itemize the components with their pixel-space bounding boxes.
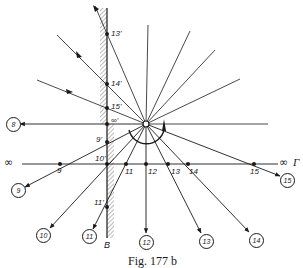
circled-label-11: 11 [82,229,97,244]
axis-point-label-13: 13 [171,168,180,176]
figure-caption: Fig. 177 b [128,255,177,267]
circled-label-10: 10 [36,228,51,243]
circled-label-13: 13 [199,234,214,249]
axis-point-label-15: 15 [250,168,259,176]
rotation-arc-arrow-icon [162,119,166,131]
wall-point-label-9p: 9' [96,136,102,144]
axis-name-gamma: Γ [293,157,299,168]
wall-point-label-15p: 15' [111,103,121,111]
wall-point-label-14p: 14' [111,80,121,88]
axis-point-label-9: 9 [57,167,61,175]
wall-label-b: B [104,241,110,250]
axis-infinity-right: ∞ [279,157,288,168]
circled-label-12: 12 [139,235,154,250]
center-pivot [143,121,149,127]
axis-point-label-12: 12 [148,168,157,176]
circled-label-9: 9 [11,183,26,198]
circled-label-15: 15 [280,173,295,188]
axis-point-label-14: 14 [189,168,198,176]
incoming-rays [37,6,146,124]
upper-rays [146,25,268,124]
circled-label-14: 14 [249,233,264,248]
wall-point-label-infp: ∞' [111,117,118,125]
wall-point-label-13p: 13' [111,30,121,38]
wall-point-label-11p: 11' [94,199,104,207]
axis-infinity-left: ∞ [4,157,13,168]
circled-label-8: 8 [6,117,21,132]
outgoing-rays [20,124,280,233]
axis-point-label-11: 11 [125,168,133,176]
wall-point-label-10p: 10' [95,155,105,163]
